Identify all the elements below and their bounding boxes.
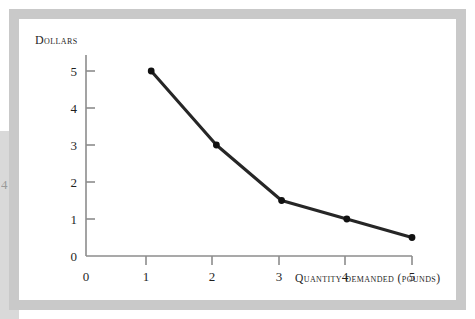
y-tick-label-3: 3 <box>63 139 77 152</box>
x-axis-ticks <box>146 256 412 265</box>
data-point-5 <box>409 234 416 241</box>
x-tick-label-0: 0 <box>79 270 93 283</box>
demand-curve-markers <box>148 68 416 241</box>
x-tick-label-2: 2 <box>205 270 219 283</box>
page: 4 <box>0 0 475 319</box>
y-tick-label-1: 1 <box>63 213 77 226</box>
data-point-2 <box>213 142 220 149</box>
x-tick-label-5: 5 <box>405 270 419 283</box>
y-tick-label-5: 5 <box>63 65 77 78</box>
data-point-1 <box>148 68 155 75</box>
x-tick-label-3: 3 <box>272 270 286 283</box>
plot-area <box>19 19 456 300</box>
demand-curve-line <box>151 71 412 238</box>
x-tick-label-4: 4 <box>338 270 352 283</box>
data-point-4 <box>343 216 350 223</box>
y-axis-title: Dollars <box>35 33 78 48</box>
x-tick-label-1: 1 <box>139 270 153 283</box>
y-axis-ticks <box>86 71 95 219</box>
y-tick-label-4: 4 <box>63 102 77 115</box>
y-tick-label-2: 2 <box>63 176 77 189</box>
y-tick-label-0: 0 <box>63 250 77 263</box>
data-point-3 <box>278 197 285 204</box>
demand-curve-figure: Dollars Quantity demanded (pounds) 0 1 2… <box>19 19 456 300</box>
